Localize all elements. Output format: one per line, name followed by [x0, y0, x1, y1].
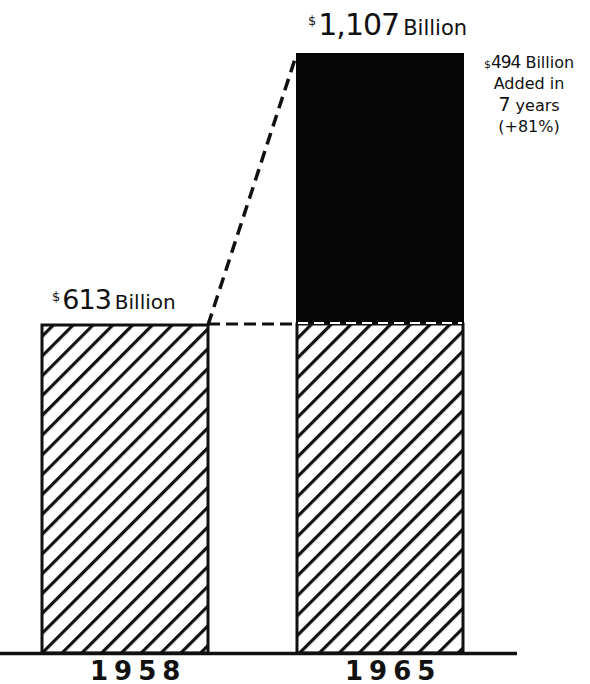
dollar-sign: $	[52, 289, 60, 304]
bar-1965-added	[296, 53, 464, 323]
bar-1965-base	[297, 324, 463, 653]
added-annotation: $494 Billion Added in 7 years (+81%)	[470, 52, 588, 137]
total-value: 613	[62, 284, 111, 315]
x-tick-1958: 1958	[90, 658, 186, 684]
annotation-line-3: 7 years	[470, 94, 588, 116]
label-1958-total: $613Billion	[52, 286, 176, 313]
label-1965-total: $1,107Billion	[308, 10, 467, 40]
diagonal-connector	[208, 56, 296, 325]
bar-1958	[42, 325, 208, 653]
annotation-line-2: Added in	[470, 73, 588, 94]
annotation-line-1: $494 Billion	[470, 52, 588, 73]
unit-word: Billion	[403, 16, 467, 40]
x-tick-1965: 1965	[345, 658, 441, 684]
total-value: 1,107	[318, 7, 399, 42]
annotation-line-4: (+81%)	[470, 116, 588, 137]
bar-1965	[296, 53, 464, 653]
growth-connectors	[208, 56, 297, 325]
dollar-sign: $	[308, 13, 316, 28]
unit-word: Billion	[115, 290, 176, 314]
